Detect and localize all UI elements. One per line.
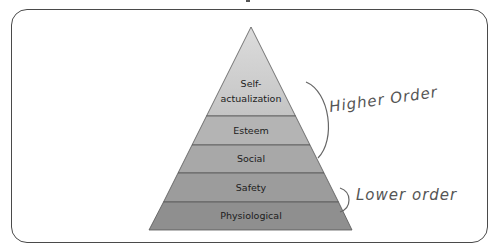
- level-label-self-1: Self-: [241, 78, 262, 89]
- level-label-social: Social: [237, 153, 265, 164]
- level-label-esteem: Esteem: [233, 125, 269, 136]
- higher-order-annotation: Higher Order: [328, 83, 439, 116]
- level-label-physiological: Physiological: [220, 210, 282, 221]
- pyramid-diagram: Self- actualization Esteem Social Safety…: [0, 0, 500, 251]
- lower-order-annotation: Lower order: [356, 186, 457, 204]
- level-label-safety: Safety: [236, 182, 267, 193]
- level-label-self-2: actualization: [221, 93, 282, 104]
